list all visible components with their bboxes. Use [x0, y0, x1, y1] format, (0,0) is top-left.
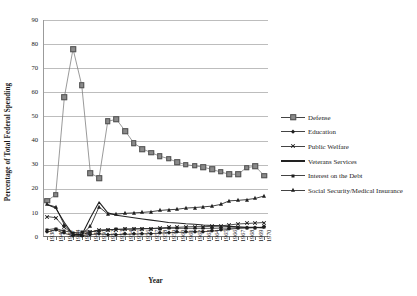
data-point-marker [193, 205, 197, 209]
y-tick-label: 40 [16, 137, 38, 144]
data-point-marker [262, 194, 266, 198]
data-point-marker [70, 46, 76, 52]
data-point-marker [45, 214, 50, 219]
legend-item[interactable]: Education [281, 125, 415, 140]
legend-label: Social Security/Medical Insurance [308, 187, 403, 194]
data-point-marker [183, 162, 189, 168]
data-point-marker [262, 220, 267, 225]
plot-area [43, 20, 268, 237]
x-tick-label: 1966 [232, 230, 238, 242]
data-point-marker [167, 208, 171, 212]
x-tick-label: 1955 [136, 230, 142, 242]
data-point-marker [114, 212, 118, 216]
data-point-marker [166, 156, 172, 162]
data-point-marker [244, 165, 250, 171]
data-point-marker [114, 117, 120, 123]
y-tick-label: 10 [16, 210, 38, 217]
data-point-marker [227, 199, 231, 203]
legend-marker [281, 141, 305, 151]
data-point-marker [105, 118, 111, 124]
legend-marker [281, 185, 305, 195]
data-point-marker [132, 211, 136, 215]
x-tick-mark [125, 237, 126, 240]
x-tick-label: 1963 [206, 230, 212, 242]
data-point-marker [201, 205, 205, 209]
data-point-marker [219, 202, 223, 206]
legend-marker [281, 112, 305, 122]
y-tick-label: 30 [16, 161, 38, 168]
x-tick-label: 1968 [249, 230, 255, 242]
data-point-marker [175, 207, 179, 211]
x-tick-label: 1959 [171, 230, 177, 242]
y-tick-label: 60 [16, 89, 38, 96]
legend-label: Defense [308, 114, 331, 121]
x-tick-label: 1953 [119, 230, 125, 242]
data-point-marker [140, 210, 144, 214]
legend-label: Interest on the Debt [308, 172, 363, 179]
x-tick-label: 1962 [197, 230, 203, 242]
x-tick-label: 1960 [180, 230, 186, 242]
data-point-marker [218, 169, 224, 175]
data-point-marker [62, 223, 66, 227]
legend-symbol-icon [291, 144, 296, 149]
data-point-marker [140, 146, 146, 152]
data-point-marker [131, 140, 137, 146]
x-tick-label: 1954 [128, 230, 134, 242]
x-tick-label: 1961 [188, 230, 194, 242]
x-axis-title: Year [43, 277, 268, 285]
legend-item[interactable]: Defense [281, 110, 415, 125]
y-tick-label: 50 [16, 113, 38, 120]
legend-label: Veterans Services [308, 158, 357, 165]
legend-line [281, 160, 305, 161]
data-point-marker [244, 221, 249, 226]
x-tick-label: 1967 [240, 230, 246, 242]
legend-marker [281, 171, 305, 181]
data-point-marker [96, 175, 102, 181]
x-tick-label: 1958 [162, 230, 168, 242]
legend-label: Education [308, 128, 336, 135]
legend-item[interactable]: Veterans Services [281, 154, 415, 169]
x-tick-label: 1957 [154, 230, 160, 242]
chart-container: Percentage of Total Federal Spending 010… [0, 0, 417, 296]
data-point-marker [253, 221, 258, 226]
y-tick-label: 90 [16, 17, 38, 24]
legend-marker [281, 127, 305, 137]
legend-item[interactable]: Public Welfare [281, 139, 415, 154]
x-tick-label: 1964 [214, 230, 220, 242]
data-point-marker [200, 164, 206, 170]
legend-item[interactable]: Social Security/Medical Insurance [281, 183, 415, 198]
x-tick-label: 1942 [67, 230, 73, 242]
data-point-marker [148, 150, 154, 156]
chart-legend: DefenseEducationPublic WelfareVeterans S… [281, 110, 415, 198]
legend-label: Public Welfare [308, 143, 349, 150]
y-tick-label: 70 [16, 65, 38, 72]
data-point-marker [253, 196, 257, 200]
legend-item[interactable]: Interest on the Debt [281, 168, 415, 183]
data-point-marker [123, 211, 127, 215]
y-axis-title: Percentage of Total Federal Spending [1, 52, 15, 232]
data-point-marker [79, 82, 85, 88]
series-lines [43, 20, 268, 237]
data-point-marker [53, 192, 59, 198]
legend-symbol-icon [291, 129, 296, 134]
x-tick-label: 1950 [101, 230, 107, 242]
data-point-marker [62, 94, 68, 100]
x-tick-label: 1940 [58, 230, 64, 242]
data-point-marker [106, 212, 110, 216]
data-point-marker [236, 198, 240, 202]
data-point-marker [158, 208, 162, 212]
data-point-marker [97, 205, 101, 209]
y-tick-label: 80 [16, 41, 38, 48]
data-point-marker [184, 206, 188, 210]
x-tick-mark [151, 237, 152, 240]
data-point-marker [235, 172, 241, 178]
data-point-marker [192, 163, 198, 169]
x-tick-label: 1938 [49, 230, 55, 242]
legend-marker [281, 156, 305, 166]
data-point-marker [88, 224, 92, 228]
data-point-marker [245, 197, 249, 201]
data-point-marker [263, 226, 266, 229]
x-tick-label: 1970 [266, 230, 272, 242]
data-point-marker [210, 204, 214, 208]
data-point-marker [209, 167, 215, 173]
